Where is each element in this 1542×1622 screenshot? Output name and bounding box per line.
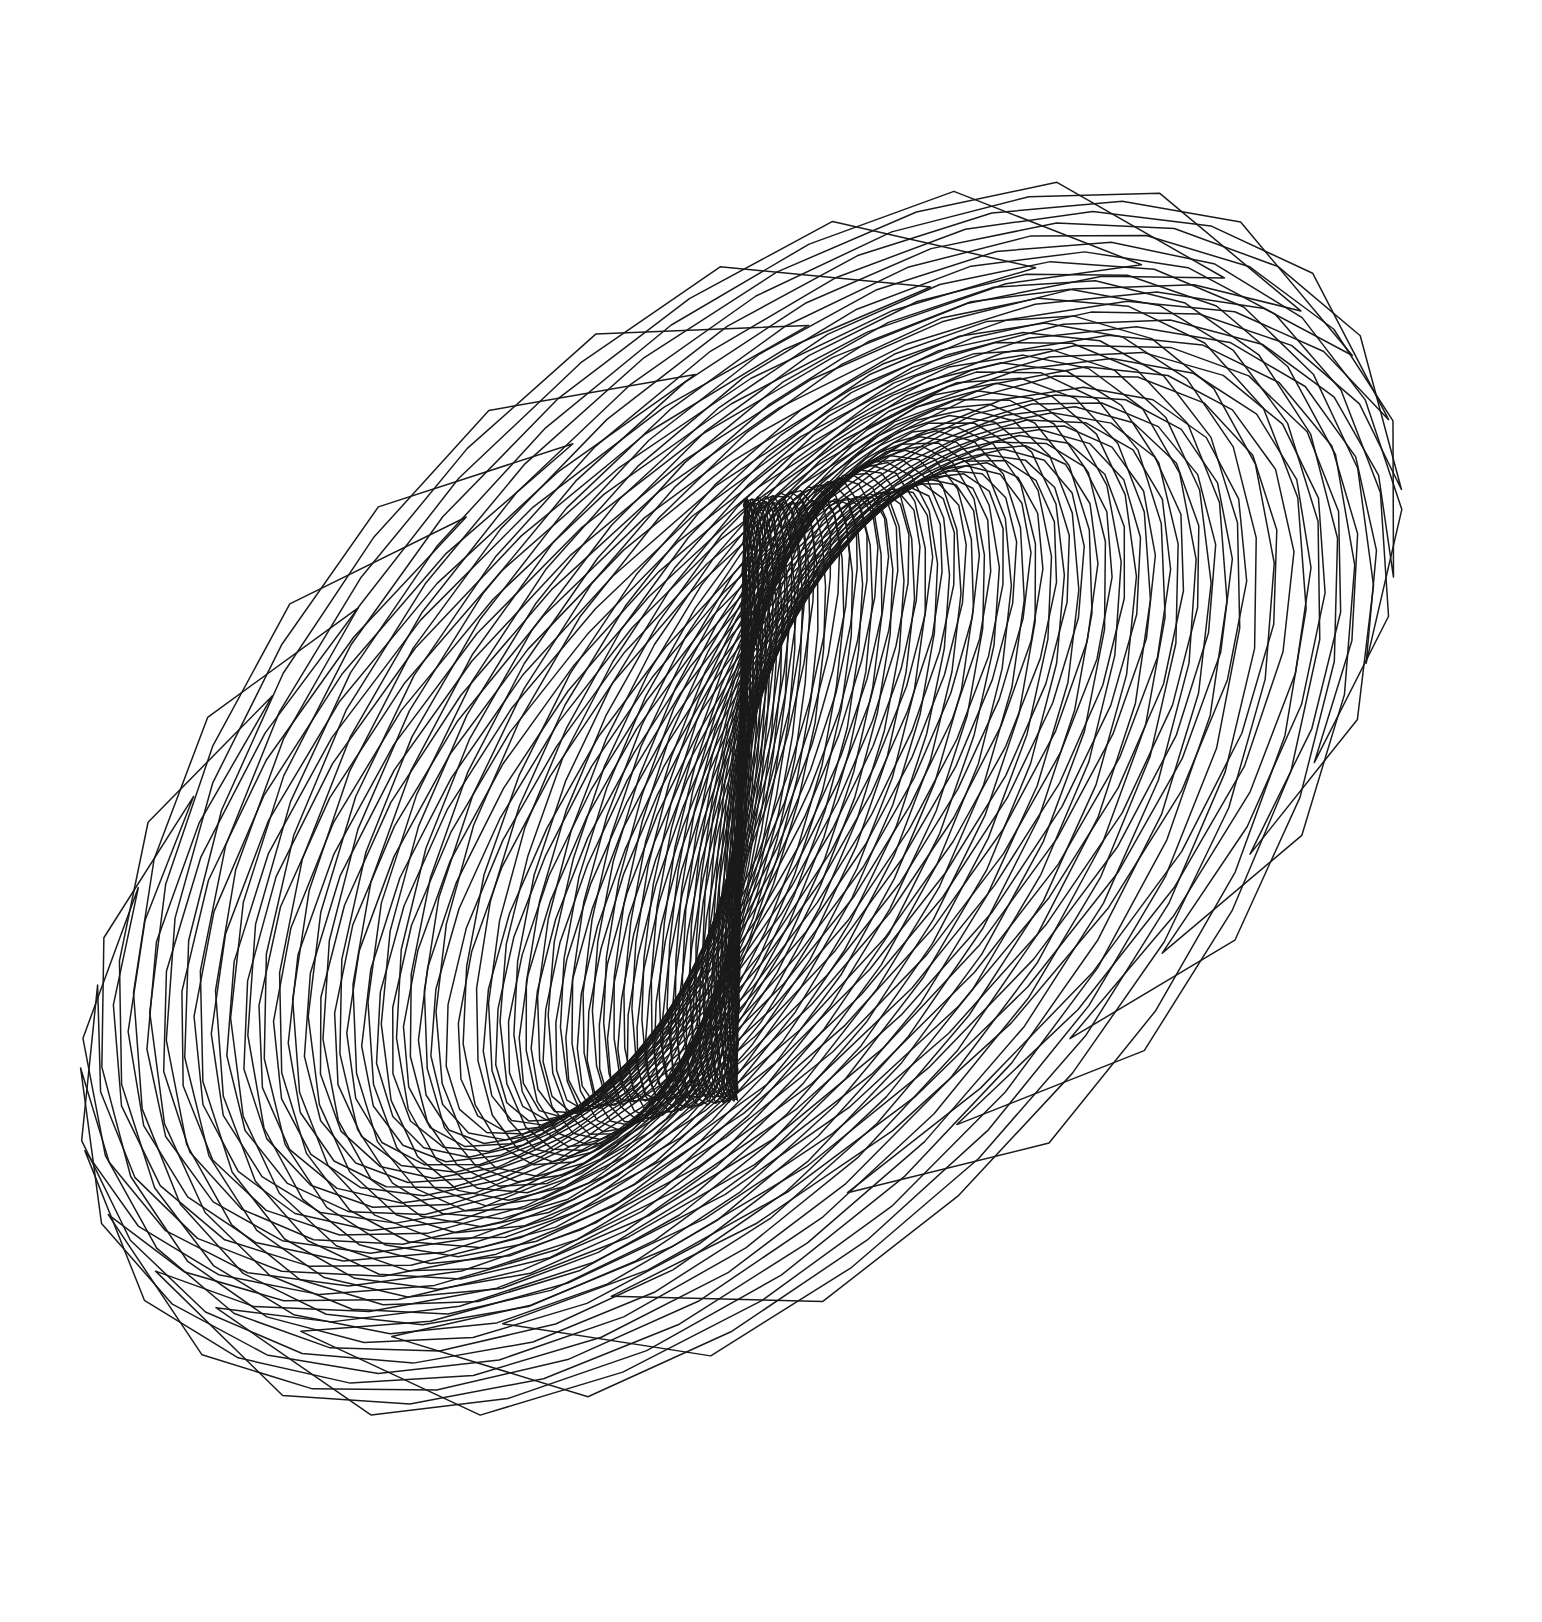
artwork-frame bbox=[0, 0, 1542, 1622]
canvas-background bbox=[0, 0, 1542, 1622]
spiral-rosette-drawing bbox=[0, 0, 1542, 1622]
